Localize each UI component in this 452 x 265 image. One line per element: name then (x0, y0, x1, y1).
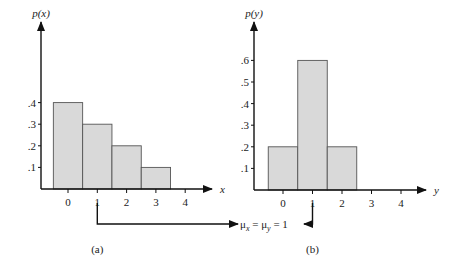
y-tick-label: .4 (241, 98, 250, 110)
y-tick-label: .3 (28, 118, 37, 130)
y-tick-label: .1 (28, 161, 36, 173)
y-tick-label: .2 (241, 141, 249, 153)
y-tick-label: .2 (28, 140, 36, 152)
x-axis-label: y (433, 184, 439, 196)
x-tick-label: 2 (339, 197, 345, 209)
bar-1 (83, 124, 112, 189)
x-axis-label: x (219, 183, 225, 195)
x-tick-label: 0 (65, 196, 71, 208)
y-tick-label: .6 (241, 54, 250, 66)
y-tick-label: .3 (241, 119, 250, 131)
x-tick-label: 3 (153, 196, 159, 208)
x-tick-label: 4 (398, 197, 404, 209)
bar-2 (327, 147, 357, 190)
x-tick-label: 3 (369, 197, 375, 209)
y-axis-label: p(x) (31, 7, 50, 20)
panel-label: (b) (306, 243, 319, 256)
y-axis-label: p(y) (244, 7, 263, 20)
mean-label: μx = μy = 1 (240, 218, 288, 233)
bar-0 (53, 103, 82, 189)
x-tick-label: 4 (182, 196, 188, 208)
bar-2 (112, 146, 141, 189)
panel-a: .1.2.3.401234xp(x)(a) (28, 7, 225, 256)
bar-3 (141, 167, 170, 189)
x-tick-label: 2 (124, 196, 130, 208)
y-tick-label: .5 (241, 76, 250, 88)
y-tick-label: .1 (241, 162, 249, 174)
panel-label: (a) (91, 243, 104, 256)
chart-figure: .1.2.3.401234xp(x)(a) .1.2.3.4.5.601234y… (0, 0, 452, 265)
bar-1 (298, 60, 328, 190)
bar-0 (268, 147, 298, 190)
x-tick-label: 0 (280, 197, 286, 209)
y-tick-label: .4 (28, 97, 37, 109)
